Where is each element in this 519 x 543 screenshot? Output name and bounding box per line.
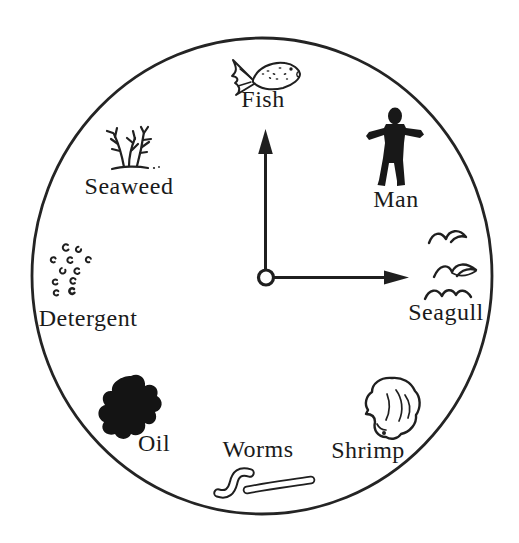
label-seagull: Seagull bbox=[408, 300, 484, 325]
label-seaweed: Seaweed bbox=[85, 174, 174, 199]
label-worms: Worms bbox=[222, 437, 293, 462]
seaweed-icon bbox=[107, 127, 160, 169]
seagull-icon bbox=[425, 231, 476, 299]
label-fish: Fish bbox=[241, 87, 284, 112]
worms-icon bbox=[218, 472, 311, 494]
man-icon bbox=[366, 108, 424, 187]
pollution-cycle-diagram: Fish Man Seagull Shrimp Worms Oil Deterg… bbox=[0, 0, 519, 543]
label-shrimp: Shrimp bbox=[331, 438, 405, 463]
label-oil: Oil bbox=[138, 431, 170, 456]
label-detergent: Detergent bbox=[39, 306, 138, 331]
shrimp-icon bbox=[366, 378, 420, 439]
label-man: Man bbox=[373, 187, 419, 212]
right-arrow bbox=[274, 271, 409, 285]
up-arrow bbox=[258, 129, 273, 270]
center-pivot bbox=[259, 270, 274, 285]
detergent-icon bbox=[50, 244, 91, 296]
